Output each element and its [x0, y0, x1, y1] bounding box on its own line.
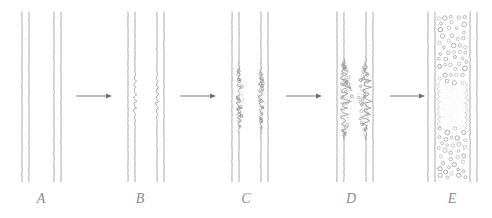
membrane-line — [155, 12, 159, 182]
panel-b — [128, 12, 164, 182]
panel-c — [232, 12, 268, 182]
panel-label-d: D — [336, 192, 366, 206]
panel-e — [428, 12, 477, 182]
panel-label-a: A — [26, 192, 56, 206]
panel-d — [337, 12, 373, 182]
arrow-a-b — [76, 93, 112, 98]
fusion-band — [436, 82, 469, 130]
figure-artwork — [0, 0, 492, 218]
panel-label-c: C — [231, 192, 261, 206]
membrane-fusion-figure: A B C D E — [0, 0, 492, 218]
membrane-line — [134, 12, 137, 182]
panel-label-b: B — [125, 192, 155, 206]
membrane-line — [341, 12, 352, 182]
arrow-c-d — [286, 93, 322, 98]
arrow-b-c — [180, 93, 216, 98]
fused-lumen — [436, 14, 468, 180]
panel-label-e: E — [437, 192, 467, 206]
membrane-line — [258, 12, 264, 182]
arrow-d-e — [390, 93, 425, 98]
panel-a — [22, 12, 61, 182]
